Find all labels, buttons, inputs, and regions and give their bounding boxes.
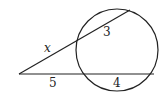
label-x: x — [44, 41, 51, 55]
secant-diagram: x 3 5 4 — [0, 0, 166, 98]
label-3: 3 — [103, 25, 111, 39]
label-5: 5 — [49, 76, 57, 90]
upper-secant-line — [19, 10, 130, 74]
label-4: 4 — [113, 76, 121, 90]
